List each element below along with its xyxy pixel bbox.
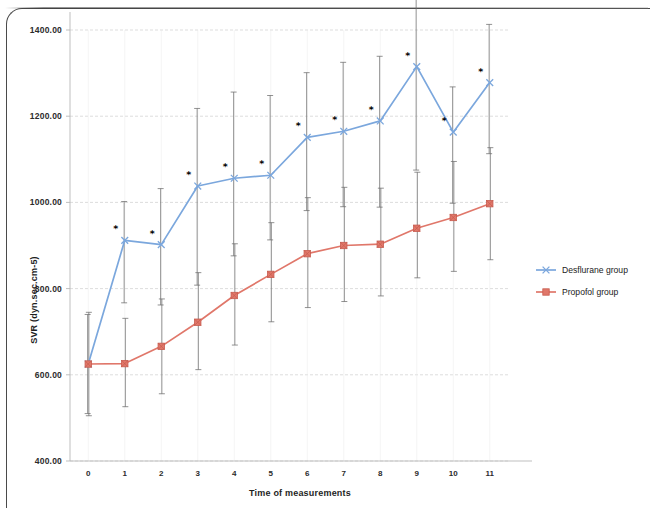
significance-star: * — [186, 169, 191, 180]
x-tick-label: 6 — [305, 469, 310, 478]
x-tick-label: 9 — [415, 469, 420, 478]
x-tick-label: 2 — [159, 469, 164, 478]
y-axis-title: SVR (dyn.sec.cm-5) — [29, 256, 39, 344]
significance-star: * — [442, 115, 447, 126]
x-axis-title: Time of measurements — [249, 488, 351, 498]
y-axis-tick-labels: 400.00600.00800.001000.001200.001400.00 — [30, 25, 62, 466]
x-tick-label: 11 — [486, 469, 495, 478]
y-tick-label: 1200.00 — [30, 111, 62, 121]
x-tick-label: 3 — [196, 469, 201, 478]
legend-marker — [543, 289, 549, 295]
x-tick-label: 8 — [378, 469, 383, 478]
y-tick-label: 600.00 — [35, 370, 62, 380]
y-tick-label: 1000.00 — [30, 197, 62, 207]
x-tick-label: 7 — [342, 469, 347, 478]
legend-label: Desflurane group — [562, 265, 628, 275]
x-tick-label: 0 — [86, 469, 91, 478]
y-tick-label: 1400.00 — [30, 25, 62, 35]
legend-label: Propofol group — [562, 287, 619, 297]
x-tick-label: 4 — [232, 469, 237, 478]
x-tick-label: 5 — [269, 469, 274, 478]
significance-star: * — [113, 223, 118, 234]
significance-star: * — [405, 50, 410, 61]
significance-star: * — [150, 228, 155, 239]
significance-star: * — [259, 158, 264, 169]
axes — [66, 12, 532, 461]
series-markers — [85, 63, 493, 367]
significance-markers: *********** — [113, 50, 483, 239]
series-line — [88, 67, 490, 364]
significance-star: * — [369, 104, 374, 115]
x-axis-tick-labels: 01234567891011 — [86, 469, 495, 478]
significance-star: * — [296, 120, 301, 131]
gridlines — [70, 30, 508, 461]
series-line — [88, 204, 490, 364]
significance-star: * — [478, 66, 483, 77]
y-tick-label: 400.00 — [35, 456, 62, 466]
x-tick-label: 1 — [123, 469, 128, 478]
significance-star: * — [332, 114, 337, 125]
x-tick-label: 10 — [449, 469, 458, 478]
significance-star: * — [223, 161, 228, 172]
series-lines — [88, 67, 490, 364]
chart-legend: Desflurane groupPropofol group — [536, 265, 628, 297]
